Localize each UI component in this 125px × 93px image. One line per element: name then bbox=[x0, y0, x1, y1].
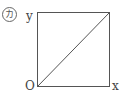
diagonal-line bbox=[38, 13, 110, 87]
square-diagram bbox=[0, 0, 125, 93]
